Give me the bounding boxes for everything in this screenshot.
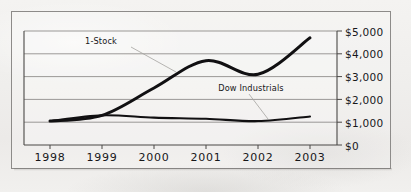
x-tick-label-1999: 1999 [86, 151, 117, 164]
x-tick-label-2002: 2002 [242, 151, 273, 164]
scanned-page: $5,000 $4,000 $3,000 $2,000 $1,000 $0 19… [0, 0, 411, 192]
plot-area-background [24, 31, 337, 145]
y-tick-label-1000: $1,000 [345, 117, 384, 129]
y-tick-label-5000: $5,000 [345, 26, 384, 38]
x-tick-label-2001: 2001 [190, 151, 221, 164]
x-tick-label-2003: 2003 [294, 151, 325, 164]
x-axis-tick-labels: 1998 1999 2000 2001 2002 2003 [34, 151, 325, 164]
y-tick-label-4000: $4,000 [345, 48, 384, 60]
annotation-label-dow-industrials: Dow Industrials [218, 83, 284, 93]
annotation-label-1-stock: 1-Stock [85, 36, 117, 46]
x-tick-label-1998: 1998 [34, 151, 65, 164]
y-tick-label-2000: $2,000 [345, 94, 384, 106]
y-tick-label-0: $0 [345, 140, 359, 152]
y-axis-tick-labels: $5,000 $4,000 $3,000 $2,000 $1,000 $0 [345, 26, 384, 152]
y-axis-ticks [337, 31, 342, 145]
line-chart: $5,000 $4,000 $3,000 $2,000 $1,000 $0 19… [0, 0, 411, 192]
y-tick-label-3000: $3,000 [345, 71, 384, 83]
x-tick-label-2000: 2000 [138, 151, 169, 164]
x-axis-ticks [50, 145, 310, 149]
